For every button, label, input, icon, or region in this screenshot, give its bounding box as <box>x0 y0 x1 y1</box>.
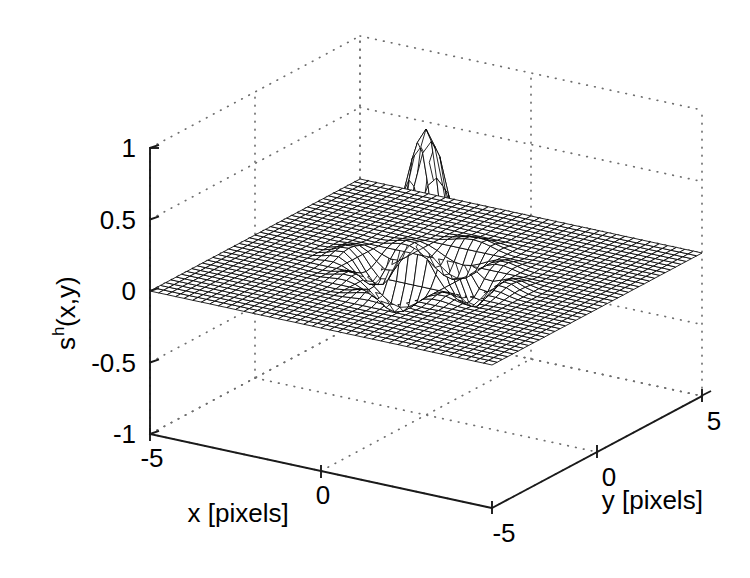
z-axis-title-base: s <box>51 337 81 350</box>
grid-line <box>321 359 531 471</box>
x-tick-label-neg5: -5 <box>140 443 163 473</box>
z-tick-label-0: 0 <box>122 276 136 306</box>
x-tick-label-0: 0 <box>316 480 330 510</box>
grid-line <box>255 378 597 452</box>
z-tick-labels: 1 0.5 0 -0.5 -1 <box>91 133 136 449</box>
z-tick-label-neg1: -1 <box>113 419 136 449</box>
z-tick-mark <box>150 216 159 219</box>
y-tick-label-neg5: -5 <box>492 518 515 548</box>
x-axis-title: x [pixels] <box>188 498 289 528</box>
z-tick-mark <box>150 359 159 362</box>
figure-container: 1 0.5 0 -0.5 -1 -5 0 -5 0 5 x [pixels] y… <box>0 0 750 578</box>
z-tick-label-1: 1 <box>122 133 136 163</box>
grid-line <box>360 36 702 110</box>
y-axis-title: y [pixels] <box>602 485 703 515</box>
y-tick-label-5: 5 <box>707 406 721 436</box>
mesh-surface <box>150 129 702 365</box>
z-axis-title: s h (x,y) <box>49 276 81 350</box>
z-tick-label-neg0p5: -0.5 <box>91 348 136 378</box>
grid-line <box>150 36 360 148</box>
surface-plot-svg: 1 0.5 0 -0.5 -1 -5 0 -5 0 5 x [pixels] y… <box>0 0 750 578</box>
y-tick-labels: -5 0 5 <box>492 406 721 548</box>
z-tick-mark <box>150 431 159 434</box>
z-tick-label-0p5: 0.5 <box>100 205 136 235</box>
z-axis-title-tail: (x,y) <box>51 276 81 327</box>
